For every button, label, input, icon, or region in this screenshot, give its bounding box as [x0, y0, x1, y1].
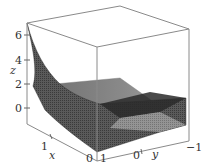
x-tick-0: 0	[86, 152, 93, 164]
y-tick-1: 1	[100, 152, 107, 164]
x-axis-label: x	[49, 149, 56, 162]
x-tick-1: 1	[41, 140, 48, 153]
y-tick-0: 0	[133, 149, 140, 162]
z-tick-0: 0	[15, 102, 22, 115]
z-tick-6: 6	[15, 29, 22, 42]
z-tick-4: 4	[15, 54, 22, 67]
y-tick-neg1: −1	[186, 141, 202, 154]
z-tick-2: 2	[15, 78, 22, 91]
z-axis-label: z	[9, 64, 16, 77]
y-axis-label: y	[151, 148, 159, 161]
bounding-box-back	[27, 6, 189, 29]
surface-plot-3d: 6 4 2 0 z 1 0 x 1 0 −1 y	[0, 0, 207, 164]
